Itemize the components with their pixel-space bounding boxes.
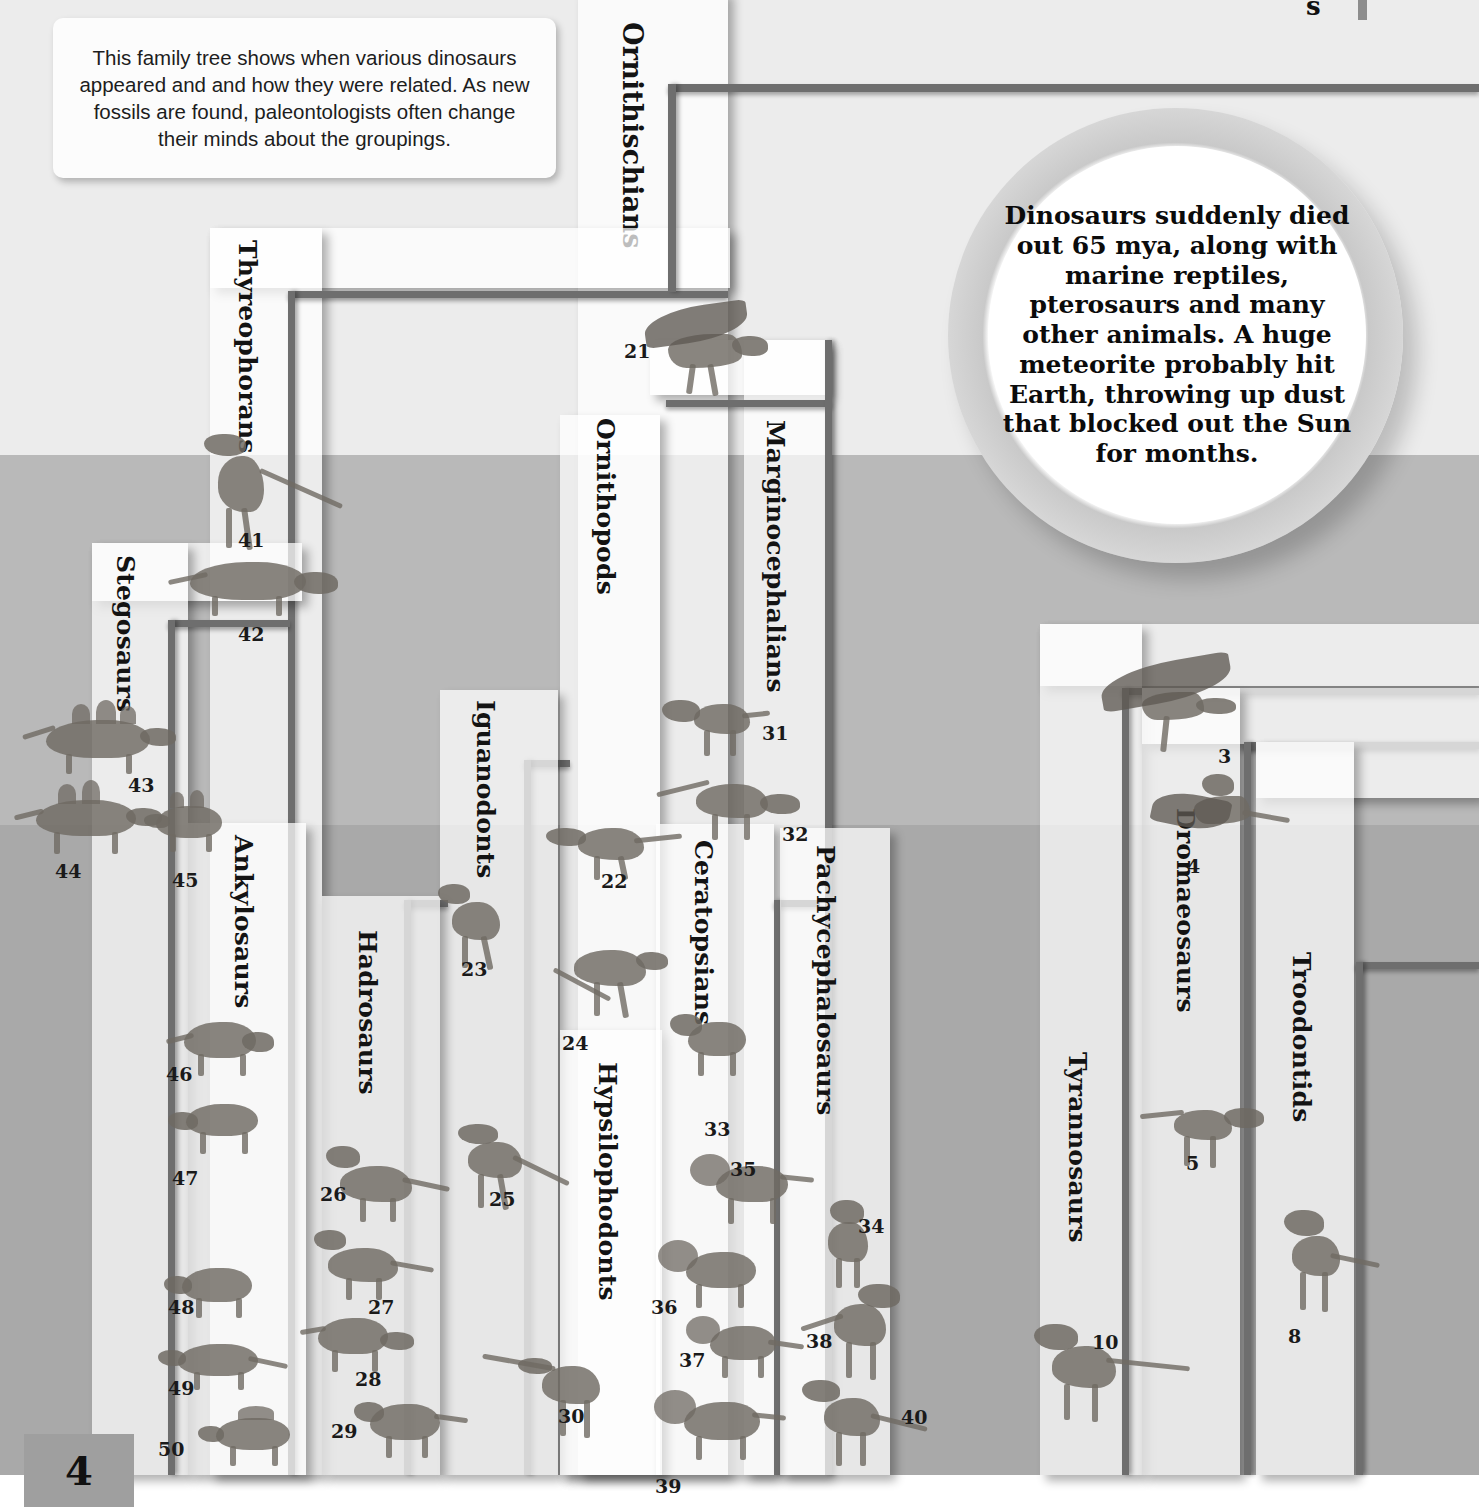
specimen-number-27: 27 xyxy=(368,1296,394,1318)
clade-label-ceratopsians: Ceratopsians xyxy=(689,840,718,1025)
clade-label-thyreophorans: Thyreophorans xyxy=(233,240,262,454)
clade-label-ornithopods: Ornithopods xyxy=(591,418,620,595)
clade-label-dromaeosaurs: Dromaeosaurs xyxy=(1171,808,1200,1013)
bracket-rail-saurischians xyxy=(668,84,1479,92)
specimen-number-48: 48 xyxy=(168,1296,194,1318)
bracket-rail-troodontids xyxy=(1356,962,1479,969)
clade-label-hadrosaurs: Hadrosaurs xyxy=(353,930,382,1095)
specimen-number-3: 3 xyxy=(1218,745,1231,767)
clade-label-hypsilophodonts: Hypsilophodonts xyxy=(593,1062,622,1301)
specimen-number-43: 43 xyxy=(128,774,154,796)
intro-caption-text: This family tree shows when various dino… xyxy=(71,44,538,152)
page-bottom-margin xyxy=(0,1475,1479,1507)
specimen-number-40: 40 xyxy=(901,1406,927,1428)
specimen-number-21: 21 xyxy=(624,340,650,362)
specimen-number-29: 29 xyxy=(331,1420,357,1442)
clipped-saurischians-label: s xyxy=(1306,0,1321,21)
clade-label-ornithischians: Ornithischians xyxy=(617,22,648,249)
specimen-number-34: 34 xyxy=(858,1215,884,1237)
specimen-number-45: 45 xyxy=(172,869,198,891)
bracket-stem-troodontids xyxy=(1356,962,1363,1475)
specimen-number-24: 24 xyxy=(562,1032,588,1054)
specimen-number-37: 37 xyxy=(679,1349,705,1371)
extinction-callout-text: Dinosaurs suddenly died out 65 mya, alon… xyxy=(988,201,1366,469)
extinction-callout: Dinosaurs suddenly died out 65 mya, alon… xyxy=(988,146,1366,524)
bracket-rail-stegosaurs xyxy=(168,620,290,627)
clade-label-stegosaurs: Stegosaurs xyxy=(111,555,140,712)
specimen-number-44: 44 xyxy=(55,860,81,882)
specimen-number-22: 22 xyxy=(601,870,627,892)
clade-label-marginocephalians: Marginocephalians xyxy=(761,420,790,693)
clade-label-tyrannosaurs: Tyrannosaurs xyxy=(1063,1052,1092,1243)
specimen-number-23: 23 xyxy=(461,958,487,980)
clade-label-iguanodonts: Iguanodonts xyxy=(471,700,500,879)
clipped-rail-segment xyxy=(1358,0,1367,20)
bracket-stem-saurischians xyxy=(668,84,676,292)
bracket-rail-thyreophorans xyxy=(288,291,728,298)
specimen-number-36: 36 xyxy=(651,1296,677,1318)
specimen-number-50: 50 xyxy=(158,1438,184,1460)
specimen-number-5: 5 xyxy=(1186,1152,1199,1174)
specimen-number-31: 31 xyxy=(762,722,788,744)
page-number: 4 xyxy=(65,1447,93,1494)
specimen-number-32: 32 xyxy=(782,823,808,845)
clade-label-ankylosaurs: Ankylosaurs xyxy=(229,835,258,1009)
specimen-number-26: 26 xyxy=(320,1183,346,1205)
specimen-number-47: 47 xyxy=(172,1167,198,1189)
specimen-number-30: 30 xyxy=(558,1405,584,1427)
specimen-number-10: 10 xyxy=(1092,1331,1118,1353)
specimen-number-33: 33 xyxy=(704,1118,730,1140)
bracket-stem-dromaeosaurs xyxy=(1244,742,1251,1475)
clade-band-dromaeosaurs-stem[interactable] xyxy=(1142,688,1240,1475)
page-number-plaque: 4 xyxy=(24,1434,134,1507)
clade-label-troodontids: Troodontids xyxy=(1287,952,1316,1122)
specimen-number-42: 42 xyxy=(238,623,264,645)
specimen-number-41: 41 xyxy=(238,529,264,551)
specimen-number-38: 38 xyxy=(806,1330,832,1352)
specimen-number-8: 8 xyxy=(1288,1325,1301,1347)
specimen-number-28: 28 xyxy=(355,1368,381,1390)
specimen-number-4: 4 xyxy=(1187,855,1200,877)
specimen-number-49: 49 xyxy=(168,1377,194,1399)
specimen-number-46: 46 xyxy=(166,1063,192,1085)
bracket-rail-marginocephalians xyxy=(666,400,832,407)
bracket-stem-tyrannosaurs xyxy=(1122,688,1129,1475)
clade-label-pachycephalosaurs: Pachycephalosaurs xyxy=(811,845,840,1116)
specimen-number-25: 25 xyxy=(489,1188,515,1210)
specimen-number-39: 39 xyxy=(655,1475,681,1497)
bracket-stem-stegosaurs xyxy=(168,620,175,1475)
specimen-number-35: 35 xyxy=(730,1158,756,1180)
intro-caption-box: This family tree shows when various dino… xyxy=(53,18,556,178)
family-tree-diagram: Ornithischians Thyreophorans Stegosaurs … xyxy=(0,0,1479,1507)
